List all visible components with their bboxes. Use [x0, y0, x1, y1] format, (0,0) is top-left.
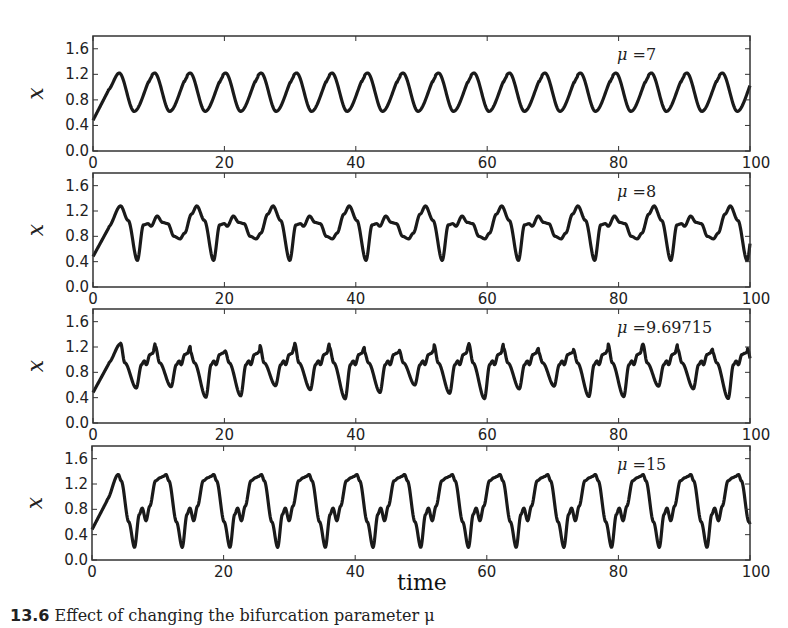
y-tick-label: 0.4 — [64, 526, 88, 544]
y-tick-label: 0.8 — [64, 500, 88, 518]
mu-annotation: μ =8 — [617, 182, 656, 201]
y-tick-label: 0.0 — [65, 142, 89, 160]
y-tick-label: 1.6 — [65, 313, 89, 331]
y-tick-label: 0.0 — [65, 414, 89, 432]
data-line — [93, 343, 750, 399]
x-tick-label: 40 — [346, 290, 365, 308]
y-tick-label: 0.8 — [65, 227, 89, 245]
x-tick-label: 20 — [214, 563, 233, 581]
x-tick-label: 40 — [346, 426, 365, 444]
panel-3: 0.00.40.81.21.6020406080100xμ =9.69715 — [23, 309, 770, 444]
x-tick-label: 0 — [88, 154, 98, 172]
caption-text: Effect of changing the bifurcation param… — [55, 606, 435, 625]
x-tick-label: 40 — [346, 563, 365, 581]
x-axis-label: time — [397, 570, 447, 595]
panel-4: 0.00.40.81.21.6020406080100xμ =15 — [22, 446, 770, 581]
y-tick-label: 1.2 — [65, 338, 89, 356]
x-tick-label: 60 — [477, 563, 496, 581]
x-tick-label: 0 — [88, 426, 98, 444]
mu-annotation: μ =7 — [617, 45, 656, 64]
data-line — [93, 73, 750, 120]
y-tick-label: 1.2 — [65, 202, 89, 220]
figure-caption: 13.6 Effect of changing the bifurcation … — [10, 606, 435, 625]
x-tick-label: 100 — [742, 563, 771, 581]
data-line — [92, 475, 750, 548]
data-line — [93, 206, 750, 260]
x-tick-label: 80 — [609, 563, 628, 581]
x-tick-label: 0 — [88, 290, 98, 308]
y-axis-label: x — [23, 223, 48, 236]
y-tick-label: 0.4 — [65, 253, 89, 271]
y-tick-label: 1.6 — [65, 40, 89, 58]
y-axis-label: x — [23, 87, 48, 100]
y-axis-label: x — [23, 359, 48, 372]
y-tick-label: 1.2 — [65, 65, 89, 83]
x-tick-label: 80 — [609, 290, 628, 308]
mu-annotation: μ =15 — [617, 455, 666, 474]
x-tick-label: 100 — [742, 426, 771, 444]
x-tick-label: 40 — [346, 154, 365, 172]
mu-annotation: μ =9.69715 — [617, 318, 712, 337]
y-tick-label: 0.0 — [65, 278, 89, 296]
x-tick-label: 80 — [609, 154, 628, 172]
y-tick-label: 1.2 — [64, 475, 88, 493]
y-tick-label: 0.4 — [65, 389, 89, 407]
caption-number: 13.6 — [10, 606, 49, 625]
y-tick-label: 1.6 — [64, 450, 88, 468]
y-tick-label: 0.8 — [65, 91, 89, 109]
y-tick-label: 0.0 — [64, 551, 88, 569]
x-tick-label: 20 — [215, 290, 234, 308]
x-tick-label: 60 — [478, 154, 497, 172]
y-axis-label: x — [22, 496, 47, 509]
panel-2: 0.00.40.81.21.6020406080100xμ =8 — [23, 173, 770, 308]
x-tick-label: 100 — [742, 154, 771, 172]
y-tick-label: 0.8 — [65, 363, 89, 381]
x-tick-label: 60 — [478, 426, 497, 444]
x-tick-label: 80 — [609, 426, 628, 444]
y-tick-label: 0.4 — [65, 116, 89, 134]
y-tick-label: 1.6 — [65, 177, 89, 195]
x-tick-label: 100 — [742, 290, 771, 308]
x-tick-label: 0 — [87, 563, 97, 581]
panel-1: 0.00.40.81.21.6020406080100xμ =7 — [23, 36, 770, 172]
x-tick-label: 20 — [215, 426, 234, 444]
x-tick-label: 60 — [478, 290, 497, 308]
x-tick-label: 20 — [215, 154, 234, 172]
